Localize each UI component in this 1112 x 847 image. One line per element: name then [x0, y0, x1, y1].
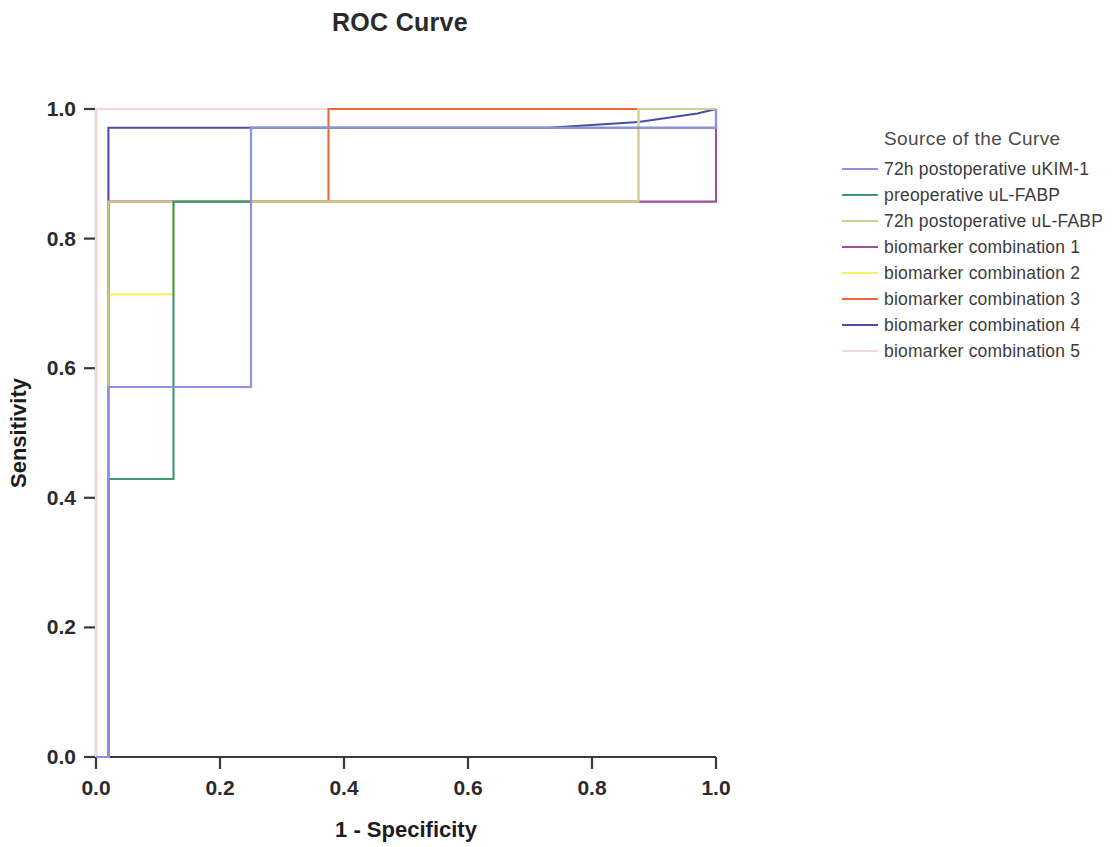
- legend-item-label: biomarker combination 3: [884, 289, 1080, 310]
- legend-color-swatch: [842, 298, 878, 300]
- roc-series-line: [96, 109, 716, 757]
- x-tick-label: 0.2: [205, 776, 234, 799]
- y-tick-label: 1.0: [47, 97, 76, 120]
- legend-item-label: biomarker combination 2: [884, 263, 1080, 284]
- legend-title: Source of the Curve: [884, 128, 1106, 150]
- x-axis-title: 1 - Specificity: [335, 817, 478, 842]
- roc-series-line: [96, 109, 716, 757]
- x-tick-label: 0.0: [81, 776, 110, 799]
- y-tick-label: 0.8: [47, 227, 77, 250]
- legend-color-swatch: [842, 246, 878, 248]
- x-tick-label: 0.8: [577, 776, 607, 799]
- legend-item[interactable]: 72h postoperative uL-FABP: [842, 208, 1106, 234]
- legend-item[interactable]: preoperative uL-FABP: [842, 182, 1106, 208]
- roc-chart: ROC Curve 0.00.20.40.60.81.00.00.20.40.6…: [0, 0, 1112, 847]
- legend-color-swatch: [842, 272, 878, 274]
- roc-series-line: [96, 109, 716, 757]
- legend-item[interactable]: biomarker combination 2: [842, 260, 1106, 286]
- x-tick-label: 0.6: [453, 776, 482, 799]
- legend-item[interactable]: biomarker combination 5: [842, 338, 1106, 364]
- roc-series-line: [96, 109, 716, 757]
- y-axis-title: Sensitivity: [6, 377, 31, 488]
- legend-color-swatch: [842, 324, 878, 326]
- legend-color-swatch: [842, 168, 878, 170]
- roc-series-line: [96, 109, 716, 757]
- legend: Source of the Curve 72h postoperative uK…: [842, 128, 1106, 364]
- y-tick-label: 0.4: [47, 486, 77, 509]
- legend-item[interactable]: biomarker combination 3: [842, 286, 1106, 312]
- x-tick-label: 1.0: [701, 776, 730, 799]
- legend-color-swatch: [842, 194, 878, 196]
- y-tick-label: 0.2: [47, 615, 76, 638]
- legend-item-label: 72h postoperative uKIM-1: [884, 159, 1089, 180]
- legend-item[interactable]: biomarker combination 4: [842, 312, 1106, 338]
- legend-item-label: preoperative uL-FABP: [884, 185, 1060, 206]
- x-tick-label: 0.4: [329, 776, 359, 799]
- roc-series-line: [96, 109, 716, 757]
- legend-color-swatch: [842, 350, 878, 352]
- legend-item-label: 72h postoperative uL-FABP: [884, 211, 1103, 232]
- legend-color-swatch: [842, 220, 878, 222]
- roc-series-line: [96, 109, 716, 757]
- legend-item[interactable]: biomarker combination 1: [842, 234, 1106, 260]
- y-tick-label: 0.0: [47, 745, 76, 768]
- y-tick-label: 0.6: [47, 356, 76, 379]
- legend-item[interactable]: 72h postoperative uKIM-1: [842, 156, 1106, 182]
- legend-item-label: biomarker combination 1: [884, 237, 1080, 258]
- legend-item-label: biomarker combination 5: [884, 341, 1080, 362]
- roc-series-line: [96, 109, 716, 757]
- legend-item-list: 72h postoperative uKIM-1preoperative uL-…: [842, 156, 1106, 364]
- legend-item-label: biomarker combination 4: [884, 315, 1080, 336]
